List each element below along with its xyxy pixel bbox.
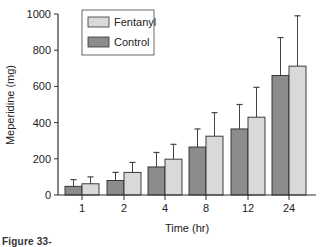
x-axis: 12481224	[58, 195, 316, 214]
x-tick-label: 4	[162, 202, 168, 214]
bar-control	[148, 167, 165, 195]
bar-control	[189, 147, 206, 195]
x-tick-label: 12	[242, 202, 254, 214]
bar-control	[272, 76, 289, 195]
bar-fentanyl	[165, 159, 182, 195]
y-tick-label: 200	[33, 153, 51, 165]
bar-group-2	[107, 162, 141, 195]
bar-fentanyl	[82, 184, 99, 195]
legend-swatch-control	[88, 37, 109, 47]
x-tick-label: 2	[121, 202, 127, 214]
bar-fentanyl	[289, 66, 306, 195]
x-axis-title: Time (hr)	[165, 222, 209, 234]
x-tick-label: 24	[283, 202, 295, 214]
legend-swatch-fentanyl	[88, 17, 109, 27]
y-axis: 02004006008001000	[27, 8, 58, 201]
bar-group-1	[65, 177, 99, 195]
legend-label-fentanyl: Fentanyl	[114, 16, 156, 28]
bar-group-8	[189, 113, 223, 195]
bar-control	[65, 186, 82, 195]
bar-group-12	[231, 87, 265, 195]
legend: Fentanyl Control	[82, 10, 156, 55]
bar-group-24	[272, 16, 306, 195]
y-tick-label: 800	[33, 44, 51, 56]
y-tick-label: 600	[33, 80, 51, 92]
figure-caption: Figure 33-	[2, 236, 52, 247]
bar-control	[231, 129, 248, 195]
bar-group-4	[148, 144, 182, 195]
x-tick-label: 8	[203, 202, 209, 214]
bar-fentanyl	[124, 172, 141, 195]
bar-fentanyl	[206, 136, 223, 195]
y-tick-label: 1000	[27, 8, 51, 20]
legend-label-control: Control	[114, 36, 149, 48]
x-tick-label: 1	[79, 202, 85, 214]
y-tick-label: 400	[33, 117, 51, 129]
bar-control	[107, 181, 124, 195]
y-tick-label: 0	[45, 189, 51, 201]
bar-fentanyl	[248, 117, 265, 195]
y-axis-title: Meperidine (mg)	[4, 65, 16, 145]
